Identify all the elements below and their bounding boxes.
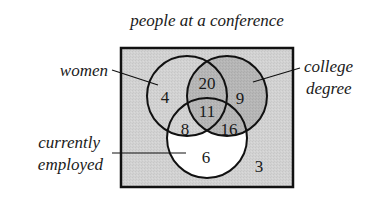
region-all-three: 11 — [199, 102, 215, 121]
women-label: women — [60, 61, 108, 80]
region-employed-only: 6 — [202, 148, 211, 167]
employed-label-line1: currently — [38, 133, 100, 152]
region-none: 3 — [255, 157, 264, 176]
college-label-line2: degree — [306, 79, 352, 98]
employed-label-line2: employed — [38, 155, 104, 174]
region-college-employed: 16 — [221, 120, 238, 139]
venn-diagram: people at a conference 4 20 9 11 8 16 6 … — [0, 0, 380, 207]
diagram-title: people at a conference — [129, 11, 284, 30]
region-women-employed: 8 — [181, 120, 190, 139]
college-label-line1: college — [304, 57, 354, 76]
region-women-college: 20 — [199, 74, 216, 93]
region-college-only: 9 — [236, 89, 245, 108]
region-women-only: 4 — [161, 88, 170, 107]
